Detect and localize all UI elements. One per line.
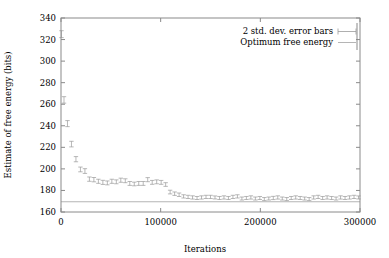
legend-item-error-bars-label: 2 std. dev. error bars [243,26,333,36]
y-tick-label: 260 [40,99,56,109]
y-axis-title: Estimate of free energy (bits) [3,51,13,178]
y-tick-label: 200 [40,164,56,174]
legend-item-optimum-label: Optimum free energy [240,37,333,47]
y-tick-label: 160 [40,207,56,217]
x-axis-title: Iterations [184,244,226,254]
y-tick-label: 280 [40,78,56,88]
chart-figure: 0100000200000300000 16018020022024026028… [0,0,389,258]
x-tick-label: 0 [58,217,63,227]
x-tick-label: 100000 [144,217,176,227]
free-energy-scatter-chart: 0100000200000300000 16018020022024026028… [0,0,389,258]
y-tick-label: 340 [40,13,56,23]
y-tick-label: 220 [40,142,56,152]
x-tick-label: 300000 [344,217,376,227]
y-tick-label: 240 [40,121,56,131]
y-tick-label: 300 [40,56,56,66]
y-tick-label: 180 [40,185,56,195]
y-tick-label: 320 [40,35,56,45]
x-tick-label: 200000 [244,217,276,227]
